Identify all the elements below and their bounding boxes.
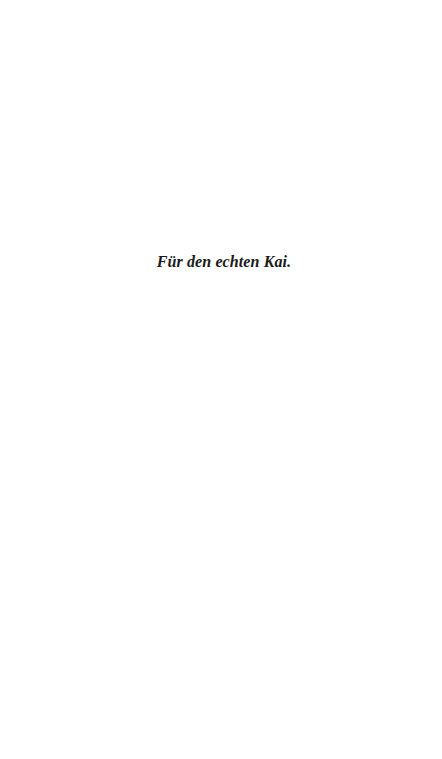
book-page: Für den echten Kai.	[0, 0, 442, 759]
dedication-text: Für den echten Kai.	[0, 252, 442, 272]
